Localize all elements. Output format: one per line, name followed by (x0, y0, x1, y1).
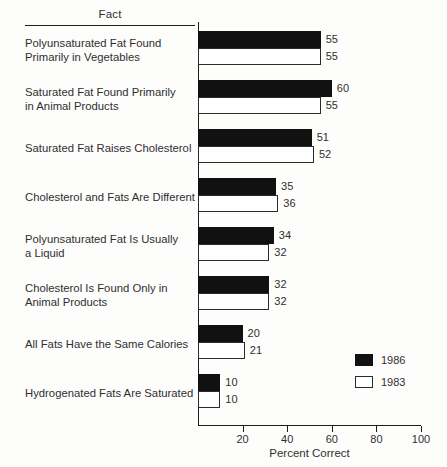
column-header-rule (25, 25, 195, 26)
x-tick-label-80: 80 (370, 433, 382, 445)
bar-1983 (198, 97, 321, 114)
bar-value-label: 51 (317, 129, 329, 146)
bar-1986 (198, 227, 274, 244)
category-label: Saturated Fat Found Primarily in Animal … (25, 86, 195, 113)
bar-1986 (198, 31, 321, 48)
bar-value-label: 55 (326, 97, 338, 114)
category-label: Saturated Fat Raises Cholesterol (25, 142, 195, 156)
legend-swatch-1983 (355, 376, 373, 388)
bar-value-label: 20 (248, 325, 260, 342)
bar-chart-figure: Fact 20406080100 Percent Correct Polyuns… (0, 0, 447, 467)
bar-1986 (198, 80, 332, 97)
x-tick-20 (243, 426, 244, 432)
bar-1983 (198, 195, 278, 212)
bar-value-label: 21 (250, 342, 262, 359)
category-label: Cholesterol and Fats Are Different (25, 191, 195, 205)
x-axis-line (198, 425, 421, 426)
bar-value-label: 10 (225, 391, 237, 408)
bar-1986 (198, 276, 269, 293)
bar-1983 (198, 244, 269, 261)
bar-value-label: 55 (326, 31, 338, 48)
x-tick-label-40: 40 (281, 433, 293, 445)
x-tick-label-100: 100 (412, 433, 430, 445)
bar-value-label: 32 (274, 293, 286, 310)
bar-1986 (198, 374, 220, 391)
x-tick-60 (332, 426, 333, 432)
bar-1983 (198, 391, 220, 408)
category-label: Hydrogenated Fats Are Saturated (25, 387, 195, 401)
bar-1983 (198, 342, 245, 359)
bar-value-label: 35 (281, 178, 293, 195)
bar-value-label: 32 (274, 244, 286, 261)
bar-1983 (198, 146, 314, 163)
x-tick-80 (376, 426, 377, 432)
category-label: Polyunsaturated Fat Is Usually a Liquid (25, 233, 195, 260)
column-header-fact: Fact (25, 8, 195, 20)
bar-value-label: 52 (319, 146, 331, 163)
category-label: Cholesterol Is Found Only in Animal Prod… (25, 282, 195, 309)
category-label: Polyunsaturated Fat Found Primarily in V… (25, 37, 195, 64)
x-tick-100 (421, 426, 422, 432)
category-label: All Fats Have the Same Calories (25, 338, 195, 352)
bar-1983 (198, 48, 321, 65)
x-axis-title: Percent Correct (198, 447, 421, 459)
bar-value-label: 55 (326, 48, 338, 65)
bar-1983 (198, 293, 269, 310)
x-tick-label-20: 20 (236, 433, 248, 445)
legend-swatch-1986 (355, 354, 373, 366)
bar-value-label: 10 (225, 374, 237, 391)
bar-value-label: 34 (279, 227, 291, 244)
x-tick-40 (287, 426, 288, 432)
legend-label-1986: 1986 (381, 352, 405, 368)
bar-1986 (198, 325, 243, 342)
bar-1986 (198, 178, 276, 195)
x-tick-label-60: 60 (326, 433, 338, 445)
legend-label-1983: 1983 (381, 374, 405, 390)
bar-value-label: 36 (283, 195, 295, 212)
bar-value-label: 32 (274, 276, 286, 293)
bar-value-label: 60 (337, 80, 349, 97)
bar-1986 (198, 129, 312, 146)
